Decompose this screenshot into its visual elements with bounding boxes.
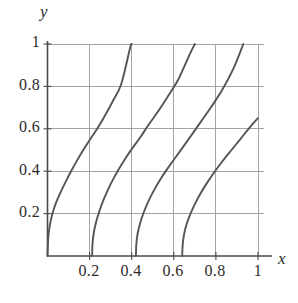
- y-tick-label-0.4: 0.4: [0, 161, 40, 179]
- x-tick-label-1: 1: [238, 262, 278, 280]
- data-curves: [48, 44, 259, 256]
- curve-curve-4: [182, 118, 258, 256]
- curve-curve-3: [136, 44, 243, 256]
- x-tick-label-0.2: 0.2: [69, 262, 109, 280]
- y-tick-label-1: 1: [0, 33, 40, 51]
- plot-canvas: [0, 0, 298, 303]
- axis-lines: [47, 41, 272, 257]
- curve-curve-2: [92, 44, 195, 256]
- y-tick-label-0.8: 0.8: [0, 76, 40, 94]
- chart-figure: y x 1 0.8 0.6 0.4 0.2 0.2 0.4 0.6 0.8 1: [0, 0, 298, 303]
- y-tick-label-0.6: 0.6: [0, 118, 40, 136]
- x-tick-label-0.4: 0.4: [111, 262, 151, 280]
- x-axis-label: x: [278, 249, 286, 269]
- y-axis-label: y: [40, 2, 48, 22]
- x-tick-label-0.6: 0.6: [153, 262, 193, 280]
- axis-ticks: [44, 44, 259, 260]
- y-tick-label-0.2: 0.2: [0, 203, 40, 221]
- x-tick-label-0.8: 0.8: [195, 262, 235, 280]
